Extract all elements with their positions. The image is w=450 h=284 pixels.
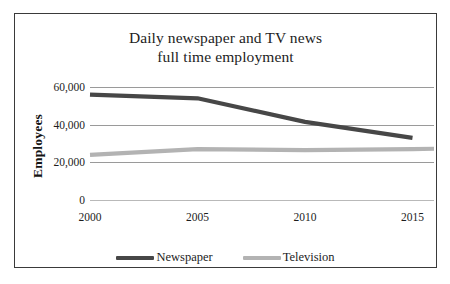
legend-item-newspaper[interactable]: Newspaper (116, 250, 212, 265)
legend-label: Television (283, 250, 335, 265)
y-tick-label: 40,000 (27, 119, 85, 131)
gridline-zero (90, 200, 434, 201)
x-axis-tick-labels: 2000 2005 2010 2015 2016 (90, 211, 434, 227)
legend-swatch-icon (243, 256, 281, 260)
y-axis-tick-labels: 60,000 40,000 20,000 0 (23, 87, 85, 200)
y-tick-label: 20,000 (27, 156, 85, 168)
chart-title-line-2: full time employment (15, 47, 436, 66)
plot-area (90, 87, 434, 200)
chart-legend: Newspaper Television (15, 250, 436, 265)
legend-item-television[interactable]: Television (243, 250, 335, 265)
x-tick-label: 2005 (186, 211, 209, 223)
legend-label: Newspaper (156, 250, 212, 265)
series-line-newspaper (90, 95, 413, 138)
x-tick-label: 2000 (79, 211, 102, 223)
legend-swatch-icon (116, 256, 154, 260)
chart-title: Daily newspaper and TV news full time em… (15, 28, 436, 66)
series-line-television (90, 149, 434, 155)
x-tick-label: 2010 (294, 211, 317, 223)
y-tick-label: 0 (27, 194, 85, 206)
chart-title-line-1: Daily newspaper and TV news (15, 28, 436, 47)
series-lines (90, 87, 434, 200)
chart-container: Daily newspaper and TV news full time em… (14, 13, 437, 268)
y-tick-label: 60,000 (27, 81, 85, 93)
x-tick-label: 2015 (401, 211, 424, 223)
